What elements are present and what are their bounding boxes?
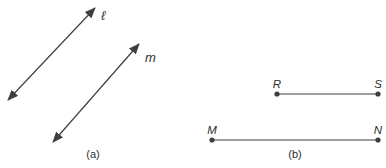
point-label: R	[273, 78, 281, 90]
endpoint-dot	[209, 137, 214, 142]
point-label: M	[207, 124, 217, 136]
endpoint-dot	[274, 91, 279, 96]
double-arrow-line-0	[8, 8, 95, 100]
endpoint-dot	[375, 91, 380, 96]
double-arrow-line-1	[53, 44, 139, 142]
endpoint-dot	[375, 137, 380, 142]
point-label: N	[374, 124, 383, 136]
geometry-figure: ℓm(a)RSMN(b)	[0, 0, 386, 168]
panel-caption: (a)	[86, 148, 99, 160]
lines-and-segments-diagram: ℓm(a)RSMN(b)	[0, 0, 386, 168]
panel-caption: (b)	[288, 148, 301, 160]
line-label: m	[145, 50, 156, 65]
line-label: ℓ	[101, 8, 106, 23]
point-label: S	[374, 78, 382, 90]
